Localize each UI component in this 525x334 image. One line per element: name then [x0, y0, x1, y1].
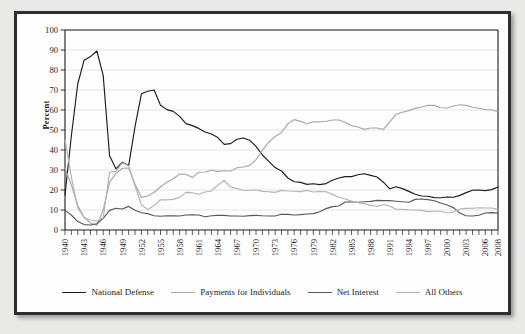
y-tick-label-90: 90 [49, 45, 58, 55]
legend-line-swatch [62, 292, 86, 293]
series-line-net-interest [65, 199, 498, 225]
y-tick-label-100: 100 [45, 25, 58, 35]
x-tick-label-1982: 1982 [328, 239, 338, 256]
x-tick-label-1970: 1970 [251, 239, 261, 256]
legend-label: All Others [425, 287, 463, 297]
legend-item-all-others[interactable]: All Others [396, 287, 463, 297]
x-tick-label-1961: 1961 [194, 239, 204, 256]
x-tick-group [65, 230, 498, 235]
y-tick-label-0: 0 [54, 225, 58, 235]
x-tick-label-1958: 1958 [175, 239, 185, 256]
y-tick-label-30: 30 [49, 165, 58, 175]
legend-item-net-interest[interactable]: Net Interest [308, 287, 379, 297]
y-tick-label-10: 10 [49, 205, 58, 215]
x-tick-label-2000: 2000 [442, 239, 452, 256]
series-line-all-others [65, 140, 498, 222]
legend-label: National Defense [91, 287, 154, 297]
legend-line-swatch [396, 292, 420, 293]
x-tick-label-1949: 1949 [118, 239, 128, 256]
screenshot-page: Percent 0102030405060708090100 194019431… [0, 0, 525, 334]
x-tick-label-1991: 1991 [385, 239, 395, 256]
x-tick-label-1997: 1997 [423, 238, 433, 256]
x-tick-label-1985: 1985 [347, 239, 357, 256]
y-tick-label-50: 50 [49, 125, 58, 135]
x-tick-label-1946: 1946 [98, 238, 108, 256]
series-line-national-defense [65, 51, 498, 198]
x-tick-label-1955: 1955 [156, 239, 166, 256]
x-tick-label-1967: 1967 [232, 238, 242, 256]
x-tick-label-2003: 2003 [461, 239, 471, 256]
x-tick-label-1943: 1943 [79, 239, 89, 256]
x-tick-label-2006: 2006 [480, 238, 490, 256]
line-chart-svg: 0102030405060708090100 19401943194619491… [17, 14, 508, 312]
x-tick-label-1979: 1979 [309, 239, 319, 256]
chart-legend: National DefensePayments for Individuals… [17, 287, 508, 297]
y-tick-label-70: 70 [49, 85, 58, 95]
legend-label: Payments for Individuals [200, 287, 291, 297]
legend-label: Net Interest [337, 287, 379, 297]
y-tick-group: 0102030405060708090100 [45, 25, 65, 235]
plot-area: 0102030405060708090100 19401943194619491… [17, 14, 508, 312]
legend-item-payments-for-individuals[interactable]: Payments for Individuals [171, 287, 291, 297]
legend-item-national-defense[interactable]: National Defense [62, 287, 154, 297]
x-tick-label-1952: 1952 [137, 239, 147, 256]
chart-figure-inner: Percent 0102030405060708090100 194019431… [17, 14, 508, 312]
chart-figure-frame: Percent 0102030405060708090100 194019431… [14, 11, 511, 315]
y-tick-label-20: 20 [49, 185, 58, 195]
series-group [65, 51, 498, 225]
y-tick-label-60: 60 [49, 105, 58, 115]
y-tick-label-80: 80 [49, 65, 58, 75]
y-tick-label-40: 40 [49, 145, 58, 155]
x-tick-label-group: 1940194319461949195219551958196119641967… [60, 238, 503, 256]
legend-line-swatch [171, 292, 195, 293]
legend-line-swatch [308, 292, 332, 293]
x-tick-label-1994: 1994 [404, 238, 414, 256]
x-tick-label-1964: 1964 [213, 238, 223, 256]
gridlines-group [65, 30, 498, 210]
x-tick-label-1976: 1976 [289, 238, 299, 256]
x-tick-label-1988: 1988 [366, 239, 376, 256]
x-tick-label-1940: 1940 [60, 239, 70, 256]
x-tick-label-2008: 2008 [493, 239, 503, 256]
x-tick-label-1973: 1973 [270, 239, 280, 256]
